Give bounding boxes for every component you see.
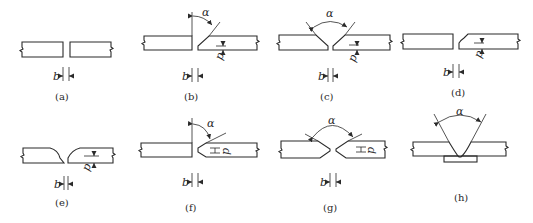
angle-symbol: α (328, 114, 336, 127)
plate-right-bevelled (462, 142, 508, 156)
root-face-symbol: p (345, 53, 360, 64)
plate-right-bevelled (198, 36, 259, 50)
panel-e: p b (e) (21, 148, 115, 208)
panel-b: α p b (b) (142, 6, 259, 102)
bevel-extension (206, 133, 226, 143)
caption-f: (f) (185, 202, 197, 213)
gap-symbol: b (318, 70, 325, 83)
caption-e: (e) (55, 197, 69, 208)
root-face-symbol: p (212, 51, 227, 62)
gap-symbol: b (320, 176, 327, 189)
angle-symbol: α (202, 6, 210, 19)
panel-g: α p b (g) (279, 114, 387, 213)
plate-left-double-bevel (279, 141, 330, 158)
plate-right-double-bevel (336, 141, 387, 158)
plate-left (142, 36, 192, 50)
plate-right (70, 42, 113, 57)
gap-symbol: b (443, 66, 450, 79)
bevel-extension-right (345, 22, 355, 35)
panel-h: α (h) (411, 105, 508, 203)
gap-symbol: b (182, 70, 189, 83)
plate-right-j-prep (459, 34, 520, 49)
caption-c: (c) (320, 91, 334, 102)
plate-left (139, 143, 192, 157)
bevel-extension-left (306, 22, 316, 35)
gap-symbol: b (53, 70, 60, 83)
panel-d: p b (d) (401, 34, 520, 98)
plate-left-u-prep (21, 148, 64, 163)
plate-left (401, 34, 453, 49)
angle-symbol: α (207, 117, 215, 130)
panel-c: α p b (c) (277, 7, 392, 102)
panel-f: α p b (f) (139, 117, 259, 213)
caption-g: (g) (323, 202, 337, 213)
angle-symbol: α (456, 105, 464, 118)
plate-left (20, 42, 63, 57)
caption-b: (b) (184, 91, 198, 102)
plate-left-bevelled (277, 35, 328, 50)
bevel-extension-left (305, 134, 318, 141)
weld-groove-diagram: b (a) α p b (b) α p b (c (0, 0, 533, 223)
caption-h: (h) (454, 192, 468, 203)
angle-arc (313, 126, 353, 138)
gap-symbol: b (182, 176, 189, 189)
gap-symbol: b (54, 178, 61, 191)
panel-a: b (a) (20, 42, 113, 102)
bevel-extension-right (348, 134, 362, 141)
caption-a: (a) (55, 91, 69, 102)
root-face-symbol: p (364, 147, 377, 154)
caption-d: (d) (451, 87, 465, 98)
plate-left-bevelled (411, 142, 458, 156)
angle-symbol: α (326, 7, 334, 20)
root-face-symbol: p (471, 49, 486, 60)
plate-right-u-prep (68, 148, 115, 163)
plate-right-bevelled (333, 35, 392, 50)
angle-arc (314, 22, 347, 28)
root-face-symbol: p (219, 148, 232, 155)
